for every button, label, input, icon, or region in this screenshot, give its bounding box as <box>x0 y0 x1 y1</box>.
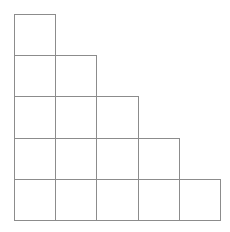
grid-cell <box>96 96 139 139</box>
grid-cell <box>14 55 56 97</box>
grid-cell <box>55 55 97 97</box>
grid-cell <box>179 179 221 221</box>
grid-cell <box>96 179 139 221</box>
grid-cell <box>14 96 56 139</box>
grid-cell <box>55 138 97 180</box>
grid-cell <box>55 96 97 139</box>
grid-cell <box>138 179 180 221</box>
staircase-grid <box>0 0 230 232</box>
grid-cell <box>96 138 139 180</box>
grid-cell <box>14 138 56 180</box>
grid-cell <box>55 179 97 221</box>
grid-cell <box>14 179 56 221</box>
grid-cell <box>138 138 180 180</box>
grid-cell <box>14 14 56 56</box>
